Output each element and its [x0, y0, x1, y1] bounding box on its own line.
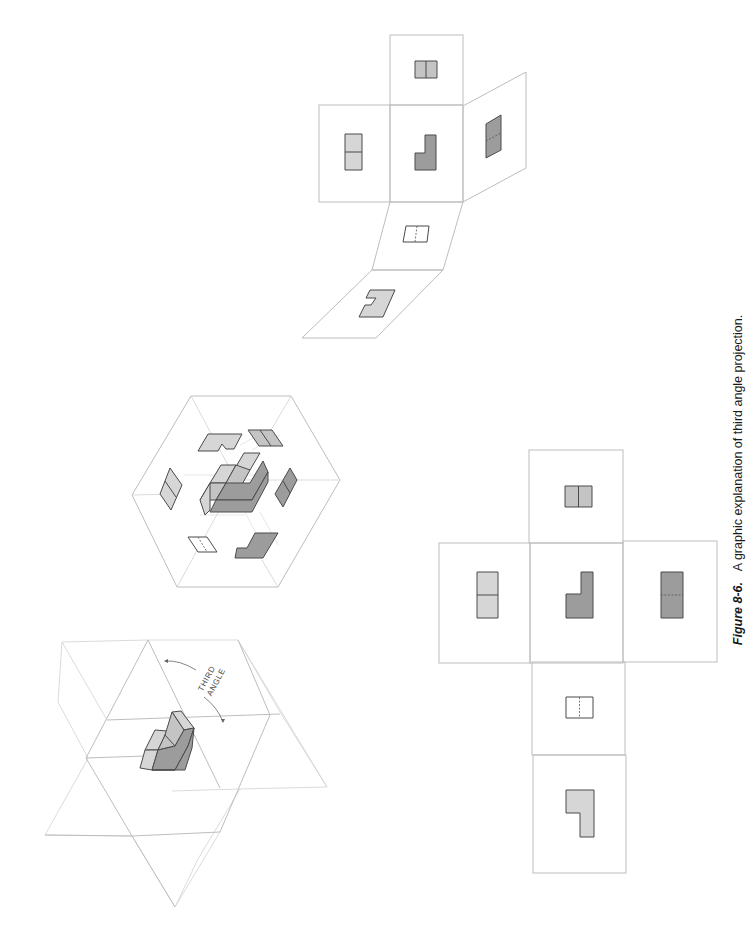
projection-planes-isometric: THIRD ANGLE — [45, 640, 327, 907]
fold-front-view — [415, 135, 436, 170]
angle-arrow-upper — [165, 661, 196, 670]
cross-front-view — [566, 572, 593, 618]
figure-caption: Figure 8-6. A graphic explanation of thi… — [731, 315, 745, 645]
fold-top-view — [415, 61, 437, 78]
fold-left-view — [345, 134, 362, 170]
unfolded-glass-box — [439, 450, 717, 873]
glass-box-right-view — [275, 468, 297, 507]
angle-arrow-lower — [204, 697, 223, 722]
caption-text: A graphic explanation of third angle pro… — [731, 315, 745, 571]
figure-number: Figure 8-6. — [731, 582, 745, 645]
fold-rear-view — [359, 290, 395, 317]
cross-bottom-view — [566, 697, 593, 718]
glass-box-bottom-view — [188, 537, 217, 552]
cross-top-view — [565, 486, 592, 507]
glass-box-front-view — [235, 533, 278, 558]
cross-left-view — [477, 572, 498, 618]
glass-box-rear-top-view — [248, 430, 283, 446]
folding-glass-box — [302, 35, 526, 338]
third-angle-projection-figure: THIRD ANGLE Figure 8-6. A gr — [0, 0, 756, 939]
third-angle-label: THIRD ANGLE — [196, 662, 227, 698]
cross-right-view — [661, 572, 683, 618]
cross-rear-view — [566, 790, 594, 837]
projection-object — [140, 711, 194, 770]
fold-bottom-view — [403, 226, 429, 242]
glass-box-isometric — [132, 396, 340, 587]
glass-box-top-view — [198, 434, 242, 451]
fold-right-view — [486, 115, 501, 158]
glass-box-object — [200, 453, 268, 515]
glass-box-left-view — [160, 468, 182, 510]
